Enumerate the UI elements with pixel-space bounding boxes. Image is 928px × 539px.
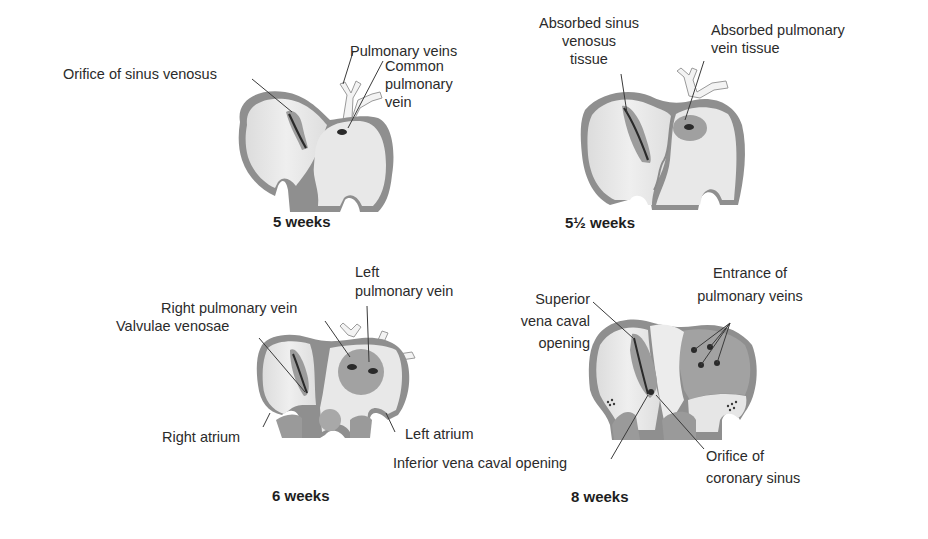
label-valvulae-venosae: Valvulae venosae [116, 318, 229, 335]
label-common-pulmonary-vein-line1: Common [385, 58, 444, 75]
label-entrance-pulmonary-veins-line1: Entrance of [680, 265, 820, 282]
pulmonary-vein-opening [684, 124, 694, 130]
heart-5-half-weeks [581, 61, 745, 210]
heart-6-weeks [257, 306, 415, 438]
caption-5-half-weeks: 5½ weeks [565, 214, 635, 231]
caption-8-weeks: 8 weeks [571, 488, 629, 505]
label-orifice-sinus-venosus: Orifice of sinus venosus [63, 66, 217, 83]
label-left-pulmonary-vein-line2: pulmonary vein [355, 283, 453, 300]
label-absorbed-sinus-line3: tissue [534, 51, 644, 68]
label-entrance-pulmonary-veins-line2: pulmonary veins [680, 288, 820, 305]
lower-central-wall [662, 412, 696, 440]
right-atrial-lower-wall [276, 414, 302, 438]
left-chamber [314, 121, 386, 206]
right-pulmonary-vein-opening [347, 364, 357, 370]
label-absorbed-sinus-line2: venosus [534, 33, 644, 50]
label-inferior-vena-caval-opening: Inferior vena caval opening [393, 455, 567, 472]
heart-8-weeks [589, 302, 757, 459]
label-common-pulmonary-vein-line2: pulmonary [385, 76, 453, 93]
label-common-pulmonary-vein-line3: vein [385, 94, 412, 111]
label-orifice-coronary-sinus-line1: Orifice of [706, 448, 764, 465]
label-svc-line1: Superior [500, 291, 590, 308]
label-absorbed-pulmonary-line1: Absorbed pulmonary [711, 22, 845, 39]
label-absorbed-pulmonary-line2: vein tissue [711, 40, 780, 57]
caption-5-weeks: 5 weeks [273, 213, 331, 230]
heart-5-weeks [239, 52, 394, 212]
pulmonary-veins-shape [340, 81, 382, 120]
caption-6-weeks: 6 weeks [272, 487, 330, 504]
label-left-pulmonary-vein-line1: Left [355, 264, 379, 281]
label-absorbed-sinus-line1: Absorbed sinus [534, 15, 644, 32]
label-left-atrium: Left atrium [405, 426, 474, 443]
left-atrium-trabeculated [688, 394, 746, 432]
left-atrial-lower-wall [350, 416, 372, 439]
label-right-pulmonary-vein: Right pulmonary vein [161, 300, 297, 317]
left-pulmonary-vein-opening [368, 368, 378, 374]
pulmonary-veins-shape [677, 68, 728, 98]
label-right-atrium: Right atrium [162, 429, 240, 446]
label-svc-line3: opening [500, 335, 590, 352]
coronary-sinus-orifice [648, 389, 654, 395]
label-svc-line2: vena caval [500, 313, 590, 330]
foramen-ovale [319, 409, 341, 431]
label-orifice-coronary-sinus-line2: coronary sinus [706, 470, 800, 487]
common-pulmonary-vein-opening [337, 129, 347, 135]
